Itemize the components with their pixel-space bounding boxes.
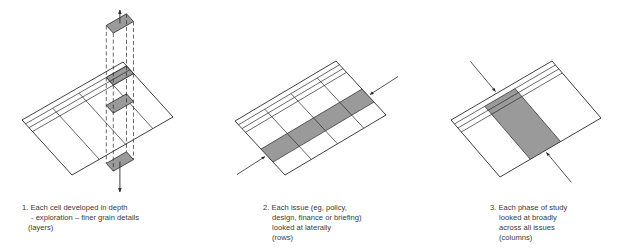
caption-text: (layers): [22, 223, 139, 233]
layer-cell: [106, 94, 133, 113]
caption-text: across all issues: [490, 223, 567, 233]
header-line: [26, 66, 127, 124]
caption-line: 1. Each cell developed in depth: [22, 203, 139, 213]
caption-line: 3. Each phase of study: [490, 203, 567, 213]
caption-number: 3.: [490, 203, 496, 212]
caption-layers: 1. Each cell developed in depth - explor…: [22, 203, 139, 233]
caption-text: Each issue (eg, policy,: [271, 203, 346, 212]
highlighted-row: [261, 89, 374, 162]
caption-text: looked at broadly: [490, 213, 567, 223]
arrow-in-bottom-icon: [546, 152, 571, 182]
caption-rows: 2. Each issue (eg, policy, design, finan…: [263, 203, 362, 243]
columns-diagram: [451, 61, 601, 182]
caption-columns: 3. Each phase of study looked at broadly…: [490, 203, 567, 243]
row-line: [261, 89, 362, 149]
caption-number: 1.: [22, 203, 28, 212]
caption-text: looked at laterally: [263, 223, 362, 233]
arrow-in-right-icon: [370, 77, 398, 95]
caption-text: (rows): [263, 233, 362, 243]
caption-line: 2. Each issue (eg, policy,: [263, 203, 362, 213]
caption-number: 2.: [263, 203, 269, 212]
caption-text: design, finance or briefing): [263, 213, 362, 223]
rows-diagram: [235, 61, 398, 175]
row-line: [273, 102, 374, 162]
caption-text: Each phase of study: [498, 203, 567, 212]
caption-text: - exploration – finer grain details: [22, 213, 139, 223]
column-line: [53, 108, 99, 159]
header-line: [29, 70, 130, 128]
layers-diagram: [22, 10, 173, 192]
arrow-in-left-icon: [237, 157, 265, 175]
caption-text: (columns): [490, 233, 567, 243]
grid-outline: [235, 61, 386, 175]
caption-text: Each cell developed in depth: [30, 203, 127, 212]
arrow-in-top-icon: [470, 61, 495, 91]
